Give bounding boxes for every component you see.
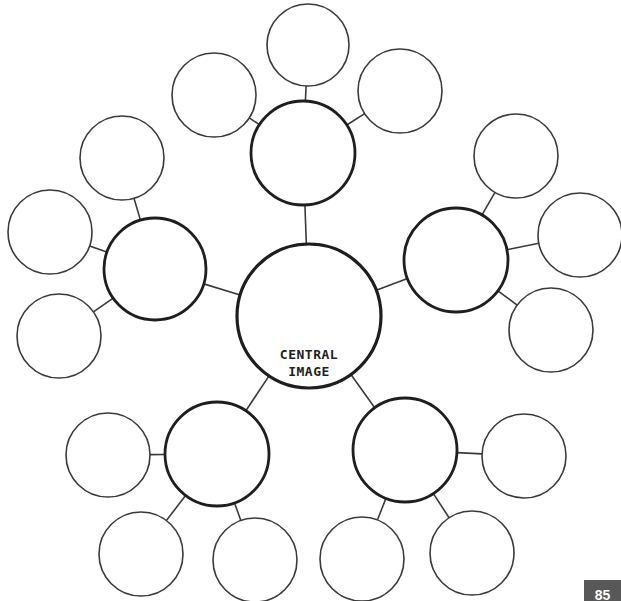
connector-left-to-leaf-1 bbox=[134, 198, 140, 220]
connector-right-to-leaf-2 bbox=[507, 243, 539, 249]
connector-left-to-leaf-2 bbox=[90, 246, 107, 252]
leaf-node-right-3 bbox=[509, 288, 593, 372]
leaf-node-left-2 bbox=[8, 190, 92, 274]
connector-central-to-left bbox=[204, 284, 240, 295]
node-circles bbox=[8, 4, 621, 601]
leaf-node-top-2 bbox=[358, 49, 442, 133]
connector-top-to-leaf-2 bbox=[347, 114, 365, 125]
connector-central-to-bottom-left bbox=[246, 376, 269, 411]
connector-left-to-leaf-3 bbox=[93, 298, 113, 312]
connector-bottom-left-to-leaf-2 bbox=[166, 495, 185, 520]
connector-bottom-right-to-leaf-3 bbox=[433, 494, 449, 518]
connector-right-to-leaf-3 bbox=[498, 291, 517, 305]
mind-map-diagram bbox=[0, 0, 621, 601]
central-image-label: CENTRAL IMAGE bbox=[249, 346, 369, 380]
connector-central-to-top bbox=[305, 205, 306, 244]
page-number-badge: 85 bbox=[584, 580, 621, 601]
connector-right-to-leaf-1 bbox=[482, 192, 495, 215]
branch-node-bottom-right bbox=[353, 398, 457, 502]
leaf-node-bottom-right-1 bbox=[482, 414, 566, 498]
leaf-node-bottom-left-3 bbox=[213, 518, 297, 601]
leaf-node-bottom-left-1 bbox=[66, 413, 150, 497]
central-label-line1: CENTRAL bbox=[249, 346, 369, 363]
connector-bottom-left-to-leaf-3 bbox=[235, 503, 241, 521]
leaf-node-right-1 bbox=[474, 114, 558, 198]
leaf-node-left-1 bbox=[80, 116, 164, 200]
leaf-node-left-3 bbox=[17, 294, 101, 378]
branch-node-bottom-left bbox=[165, 402, 269, 506]
central-label-line2: IMAGE bbox=[249, 363, 369, 380]
connector-central-to-right bbox=[376, 279, 407, 291]
connector-bottom-right-to-leaf-2 bbox=[377, 498, 386, 520]
leaf-node-top-3 bbox=[172, 53, 256, 137]
branch-node-left bbox=[104, 218, 206, 320]
leaf-node-right-2 bbox=[538, 193, 621, 277]
leaf-node-bottom-left-2 bbox=[99, 512, 183, 596]
connector-bottom-right-to-leaf-1 bbox=[457, 453, 482, 454]
branch-node-right bbox=[404, 208, 508, 312]
connector-top-to-leaf-1 bbox=[305, 86, 306, 101]
leaf-node-bottom-right-2 bbox=[320, 517, 404, 601]
leaf-node-bottom-right-3 bbox=[430, 511, 514, 595]
leaf-node-top-1 bbox=[267, 4, 349, 86]
branch-node-top bbox=[251, 101, 355, 205]
connector-top-to-leaf-3 bbox=[249, 118, 259, 125]
